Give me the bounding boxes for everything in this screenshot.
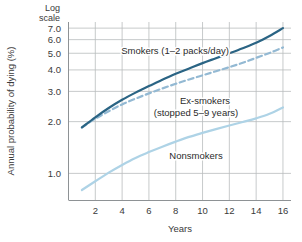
x-axis-title: Years <box>168 223 192 234</box>
smokers-label: Smokers (1–2 packs/day)Smokers (1–2 pack… <box>121 45 229 56</box>
exsmokers-label-line1-text: Ex-smokers <box>180 95 230 106</box>
x-tick-label: 6 <box>146 205 151 216</box>
exsmokers-label-line2: (stopped 5–9 years)(stopped 5–9 years) <box>154 107 239 118</box>
y-tick-label: 1.0 <box>48 168 61 179</box>
x-tick-label: 10 <box>197 205 208 216</box>
log-scale-note-line2: scale <box>39 13 60 23</box>
y-tick-label: 4.0 <box>48 64 61 75</box>
x-tick-label: 12 <box>224 205 235 216</box>
smokers-label-text: Smokers (1–2 packs/day) <box>121 45 229 56</box>
mortality-log-line-chart: 1.02.03.04.05.06.07.0 246810121416 Log s… <box>0 0 302 242</box>
y-tick-label: 7.0 <box>48 23 61 34</box>
y-tick-label: 6.0 <box>48 34 61 45</box>
chart-container: 1.02.03.04.05.06.07.0 246810121416 Log s… <box>0 0 302 242</box>
exsmokers-label-line2-text: (stopped 5–9 years) <box>154 107 239 118</box>
exsmokers-label-line1: Ex-smokersEx-smokers <box>180 95 230 106</box>
y-tick-label: 3.0 <box>48 86 61 97</box>
y-tick-label: 5.0 <box>48 48 61 59</box>
x-tick-label: 2 <box>93 205 98 216</box>
y-axis-title: Annual probability of dying (%) <box>5 47 16 176</box>
nonsmokers-label-text: Nonsmokers <box>169 150 223 161</box>
x-tick-label: 8 <box>173 205 178 216</box>
nonsmokers-label: NonsmokersNonsmokers <box>169 150 223 161</box>
x-tick-label: 4 <box>119 205 124 216</box>
y-tick-label: 2.0 <box>48 116 61 127</box>
log-scale-note-line1: Log <box>45 3 60 13</box>
x-tick-label: 14 <box>251 205 262 216</box>
x-tick-label: 16 <box>278 205 289 216</box>
